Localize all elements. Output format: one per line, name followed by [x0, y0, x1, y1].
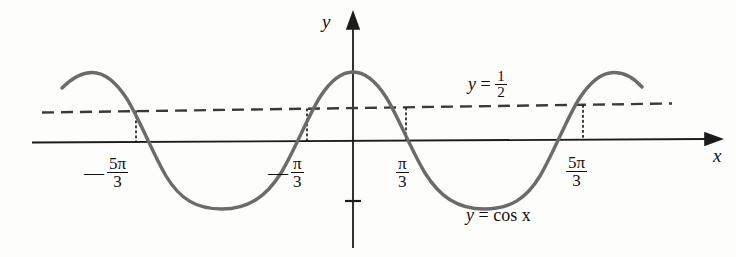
- tick-fraction-3: π3: [396, 155, 409, 191]
- tick-denominator-1: 3: [107, 173, 128, 190]
- tick-fraction-2: π3: [291, 155, 304, 191]
- tick-label-neg-pi-over-3: —π3: [268, 156, 304, 192]
- tick-fraction-4: 5π3: [566, 154, 587, 190]
- line-label-numerator: 1: [495, 69, 507, 85]
- cosine-graph-figure: y x —5π3 —π3 π3 5π3 y = 12 y = cos x: [0, 0, 736, 257]
- line-label-equals: =: [481, 74, 491, 94]
- x-axis: [32, 139, 706, 143]
- line-label-variable: y: [468, 74, 476, 94]
- curve-label-variable: y: [466, 205, 474, 225]
- tick-label-neg-5pi-over-3: —5π3: [84, 156, 128, 192]
- tick-denominator-2: 3: [291, 173, 304, 190]
- x-axis-label: x: [713, 146, 721, 165]
- line-label-fraction: 12: [495, 69, 507, 101]
- tick-label-5pi-over-3: 5π3: [566, 155, 587, 191]
- tick-fraction-1: 5π3: [107, 155, 128, 191]
- curve-label-function: cos x: [493, 205, 531, 225]
- tick-label-pi-over-3: π3: [396, 156, 409, 192]
- tick-denominator-3: 3: [396, 173, 409, 190]
- label-y-equals-cos-x: y = cos x: [466, 206, 531, 224]
- tick-minus-sign-2: —: [268, 163, 288, 183]
- curve-label-equals: =: [479, 205, 489, 225]
- y-axis-label: y: [322, 12, 330, 31]
- label-y-equals-one-half: y = 12: [468, 70, 507, 102]
- tick-minus-sign-1: —: [84, 163, 104, 183]
- tick-denominator-4: 3: [566, 172, 587, 189]
- graph-canvas: [0, 0, 736, 257]
- tick-numerator-4: 5π: [566, 154, 587, 172]
- tick-numerator-3: π: [396, 155, 409, 173]
- tick-numerator-2: π: [291, 155, 304, 173]
- line-label-denominator: 2: [495, 85, 507, 100]
- tick-numerator-1: 5π: [107, 155, 128, 173]
